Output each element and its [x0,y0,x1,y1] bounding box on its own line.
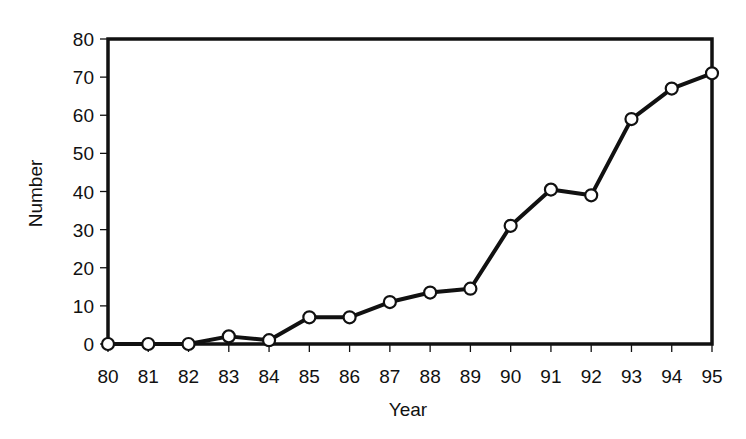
x-tick-label: 92 [581,366,602,387]
x-tick-label: 83 [218,366,239,387]
data-point-83 [223,330,235,342]
x-tick-label: 93 [621,366,642,387]
y-tick-label: 10 [73,296,94,317]
x-tick-label: 89 [460,366,481,387]
y-tick-label: 80 [73,29,94,50]
series-line [108,73,712,344]
x-tick-label: 85 [299,366,320,387]
x-tick-label: 88 [420,366,441,387]
data-point-89 [464,283,476,295]
data-point-88 [424,287,436,299]
data-point-80 [102,338,114,350]
data-point-85 [303,311,315,323]
x-tick-label: 91 [540,366,561,387]
data-point-94 [666,83,678,95]
x-tick-label: 84 [258,366,280,387]
y-tick-label: 20 [73,258,94,279]
data-point-87 [384,296,396,308]
data-point-86 [344,311,356,323]
data-point-81 [142,338,154,350]
x-tick-label: 87 [379,366,400,387]
y-tick-label: 0 [83,334,94,355]
x-tick-label: 82 [178,366,199,387]
x-tick-label: 86 [339,366,360,387]
data-point-90 [505,220,517,232]
data-point-93 [625,113,637,125]
x-tick-label: 95 [701,366,722,387]
data-point-84 [263,334,275,346]
x-tick-label: 90 [500,366,521,387]
x-tick-label: 94 [661,366,683,387]
x-axis-title: Year [389,399,428,420]
x-tick-label: 81 [138,366,159,387]
data-point-92 [585,189,597,201]
line-chart: 01020304050607080 8081828384858687888990… [0,0,746,439]
series-group [102,67,718,350]
y-axis-ticks: 01020304050607080 [73,29,109,355]
data-point-91 [545,184,557,196]
y-tick-label: 60 [73,105,94,126]
y-tick-label: 50 [73,143,94,164]
x-tick-label: 80 [97,366,118,387]
y-tick-label: 40 [73,182,94,203]
y-tick-label: 70 [73,67,94,88]
y-axis-title: Number [25,159,46,227]
data-point-95 [706,67,718,79]
data-point-82 [183,338,195,350]
y-tick-label: 30 [73,220,94,241]
